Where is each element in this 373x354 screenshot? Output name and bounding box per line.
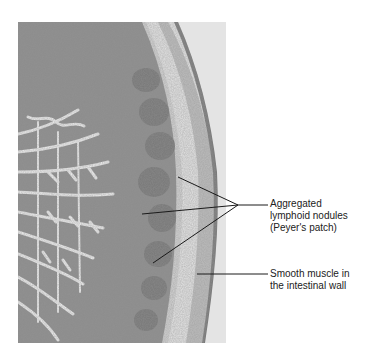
label-line: lymphoid nodules (270, 210, 348, 222)
histology-micrograph (18, 22, 226, 343)
label-line: the intestinal wall (270, 280, 349, 292)
label-line: Smooth muscle in (270, 268, 349, 280)
label-line: Aggregated (270, 198, 348, 210)
label-line: (Peyer's patch) (270, 222, 348, 234)
label-smooth-muscle: Smooth muscle in the intestinal wall (270, 268, 349, 292)
tissue-illustration (18, 22, 226, 343)
label-peyers-patch: Aggregated lymphoid nodules (Peyer's pat… (270, 198, 348, 234)
